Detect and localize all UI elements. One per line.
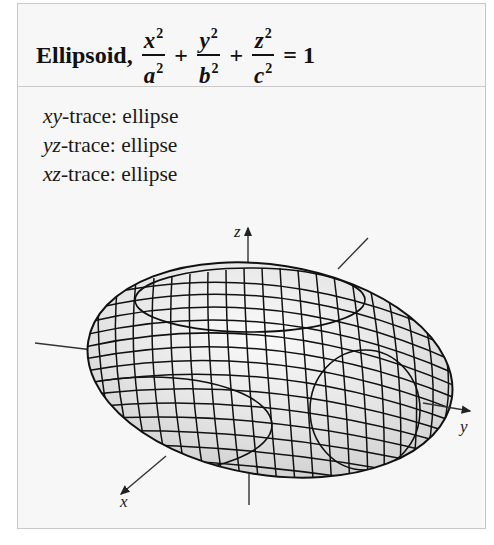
x-axis-negative: [338, 238, 368, 269]
y-axis-label: y: [458, 417, 468, 436]
x-axis-label: x: [119, 492, 128, 511]
y-axis-negative: [35, 343, 93, 350]
ellipsoid-surface: [72, 238, 468, 503]
z-axis-label: z: [233, 222, 241, 241]
ellipsoid-diagram: z y x: [0, 0, 494, 545]
x-axis: [121, 456, 166, 494]
